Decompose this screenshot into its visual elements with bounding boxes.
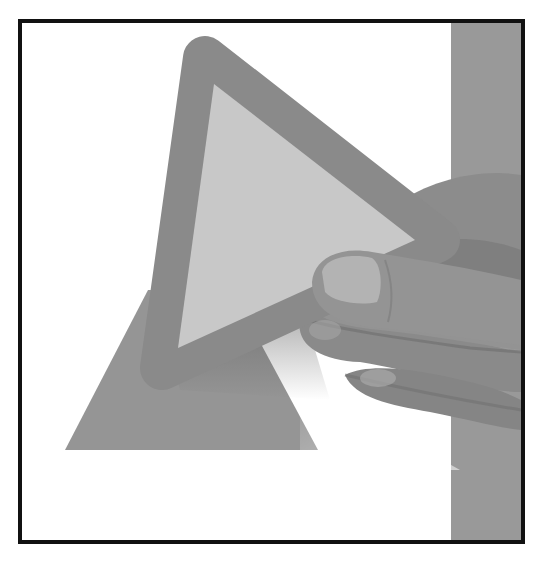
- illustration: [0, 0, 548, 567]
